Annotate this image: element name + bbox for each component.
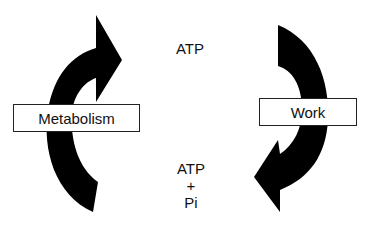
metabolism-label-box: Metabolism: [13, 104, 140, 132]
work-label-box: Work: [259, 98, 357, 126]
pi-label: Pi: [166, 194, 216, 211]
atp-bottom-label: ATP: [166, 160, 216, 177]
metabolism-label: Metabolism: [38, 110, 115, 127]
plus-sign: +: [166, 177, 216, 194]
work-label: Work: [291, 104, 326, 121]
atp-top-label: ATP: [165, 40, 215, 57]
atp-pi-group: ATP + Pi: [166, 160, 216, 211]
